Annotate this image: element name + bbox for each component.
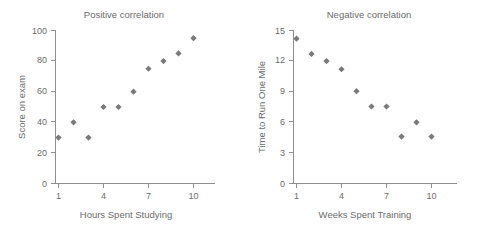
y-tick-labels-positive: 0 20 40 60 80 100 [32, 26, 47, 189]
data-point-core [295, 37, 298, 40]
chart-panel-negative: Negative correlation 0 3 6 9 12 15 [243, 0, 486, 232]
y-tick-label-80: 80 [37, 55, 47, 65]
data-point-core [117, 105, 120, 108]
data-point-core [72, 121, 75, 124]
x-ticks-negative [297, 184, 432, 189]
y-tick-label-100: 100 [32, 26, 47, 36]
y-axis-label-negative: Time to Run One Mile [256, 61, 267, 153]
x-axis-label-positive: Hours Spent Studying [80, 209, 172, 220]
x-axis-label-negative: Weeks Spent Training [319, 209, 412, 220]
scatterplot-figure: Positive correlation 0 20 40 60 80 100 [0, 0, 486, 232]
chart-title-negative: Negative correlation [327, 9, 412, 20]
axes-positive [56, 30, 216, 184]
x-tick-label-10: 10 [188, 191, 198, 201]
y-ticks-negative [289, 31, 294, 184]
x-tick-label-1: 1 [56, 191, 61, 201]
x-tick-labels-positive: 1 4 7 10 [56, 191, 199, 201]
y-axis-label-positive: Score on exam [16, 75, 27, 139]
data-points-negative [293, 36, 434, 140]
y-tick-label-3: 3 [280, 148, 285, 158]
x-ticks-positive [59, 184, 194, 189]
x-tick-label-7: 7 [384, 191, 389, 201]
data-point-core [385, 105, 388, 108]
x-tick-label-4: 4 [339, 191, 344, 201]
data-point-core [87, 136, 90, 139]
y-tick-label-20: 20 [37, 148, 47, 158]
data-point-core [340, 68, 343, 71]
chart-panel-positive: Positive correlation 0 20 40 60 80 100 [0, 0, 243, 232]
data-point-core [192, 37, 195, 40]
y-tick-labels-negative: 0 3 6 9 12 15 [275, 26, 285, 189]
y-tick-label-6: 6 [280, 117, 285, 127]
x-tick-label-7: 7 [146, 191, 151, 201]
data-point-core [132, 90, 135, 93]
data-point-core [415, 121, 418, 124]
data-point-core [400, 135, 403, 138]
axes-negative [294, 30, 458, 184]
chart-title-positive: Positive correlation [84, 9, 164, 20]
data-point-core [355, 90, 358, 93]
data-point-core [177, 52, 180, 55]
data-point-core [370, 105, 373, 108]
data-point-core [147, 67, 150, 70]
y-ticks-positive [51, 31, 56, 184]
data-point-core [430, 135, 433, 138]
y-tick-label-9: 9 [280, 86, 285, 96]
data-point-core [325, 60, 328, 63]
y-tick-label-0: 0 [280, 179, 285, 189]
y-tick-label-15: 15 [275, 26, 285, 36]
x-tick-label-1: 1 [294, 191, 299, 201]
y-tick-label-40: 40 [37, 117, 47, 127]
positive-correlation-chart: Positive correlation 0 20 40 60 80 100 [0, 0, 243, 232]
data-point-core [102, 105, 105, 108]
x-tick-label-10: 10 [426, 191, 436, 201]
x-tick-labels-negative: 1 4 7 10 [294, 191, 437, 201]
data-points-positive [55, 35, 196, 141]
x-tick-label-4: 4 [101, 191, 106, 201]
y-tick-label-0: 0 [42, 179, 47, 189]
data-point-core [162, 60, 165, 63]
y-tick-label-12: 12 [275, 55, 285, 65]
y-tick-label-60: 60 [37, 86, 47, 96]
negative-correlation-chart: Negative correlation 0 3 6 9 12 15 [243, 0, 486, 232]
data-point-core [310, 52, 313, 55]
data-point-core [57, 136, 60, 139]
